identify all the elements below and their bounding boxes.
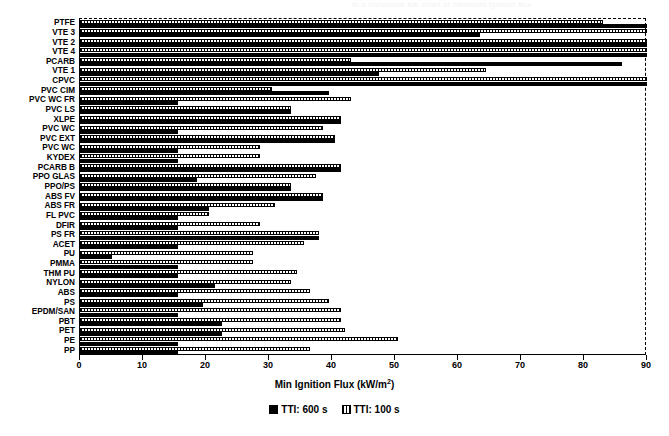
y-axis-label-pcarb-b: PCARB B — [38, 163, 75, 172]
bar-row — [80, 19, 645, 29]
legend-label: TTI: 100 s — [354, 404, 400, 415]
x-tick-label: 20 — [200, 360, 210, 370]
bar-row — [80, 308, 645, 318]
bar-row — [80, 250, 645, 260]
bar-tti-600s — [80, 226, 178, 230]
bar-row — [80, 106, 645, 116]
cropped-caption-fragment: in a horizontal bar chart of minimum ign… — [352, 0, 652, 9]
x-tick-label: 0 — [76, 360, 81, 370]
bar-tti-600s — [80, 120, 341, 124]
bar-row — [80, 58, 645, 68]
x-tick-label: 40 — [326, 360, 336, 370]
bar-row — [80, 115, 645, 125]
bar-row — [80, 231, 645, 241]
y-axis-label-vte-2: VTE 2 — [52, 38, 75, 47]
y-axis-label-vte-4: VTE 4 — [52, 47, 75, 56]
bar-tti-600s — [80, 274, 178, 278]
bar-tti-600s — [80, 72, 379, 76]
bar-tti-600s — [80, 53, 647, 57]
bar-tti-600s — [80, 265, 178, 269]
bar-row — [80, 96, 645, 106]
y-axis-label-pvc-wc-fr: PVC WC FR — [29, 95, 75, 104]
bar-tti-600s — [80, 101, 178, 105]
y-axis-label-pvc-ls: PVC LS — [45, 105, 75, 114]
bar-row — [80, 260, 645, 270]
bar-row — [80, 192, 645, 202]
y-axis-label-pe: PE — [64, 336, 75, 345]
bar-tti-600s — [80, 130, 178, 134]
bar-tti-600s — [80, 139, 335, 143]
bar-tti-600s — [80, 178, 197, 182]
y-axis-label-pbt: PBT — [59, 317, 75, 326]
y-axis-label-ptfe: PTFE — [54, 18, 75, 27]
bar-tti-600s — [80, 82, 647, 86]
bar-row — [80, 38, 645, 48]
y-axis-label-pet: PET — [59, 326, 75, 335]
bar-row — [80, 144, 645, 154]
bar-row — [80, 202, 645, 212]
y-axis-label-acet: ACET — [53, 240, 75, 249]
bar-tti-600s — [80, 322, 222, 326]
bar-row — [80, 163, 645, 173]
bar-tti-600s — [80, 62, 622, 66]
bar-tti-600s — [80, 293, 178, 297]
bar-tti-600s — [80, 187, 291, 191]
y-axis-label-pvc-wc: PVC WC — [42, 143, 75, 152]
bar-tti-600s — [80, 313, 178, 317]
y-axis-label-ppo-glas: PPO GLAS — [33, 172, 75, 181]
y-axis-label-abs: ABS — [58, 288, 75, 297]
bar-row — [80, 240, 645, 250]
bar-row — [80, 269, 645, 279]
y-axis-category-labels: PTFEVTE 3VTE 2VTE 4PCARBVTE 1CPVCPVC CIM… — [0, 18, 77, 355]
bar-tti-600s — [80, 110, 291, 114]
x-tick-label: 70 — [515, 360, 525, 370]
bar-row — [80, 183, 645, 193]
bar-row — [80, 298, 645, 308]
bar-row — [80, 289, 645, 299]
bar-tti-600s — [80, 159, 178, 163]
bar-row — [80, 135, 645, 145]
y-axis-label-vte-1: VTE 1 — [52, 66, 75, 75]
y-axis-label-thm-pu: THM PU — [44, 269, 75, 278]
bar-tti-600s — [80, 149, 178, 153]
bar-row — [80, 77, 645, 87]
bar-tti-600s — [80, 255, 112, 259]
bar-row — [80, 173, 645, 183]
y-axis-label-vte-3: VTE 3 — [52, 28, 75, 37]
bar-tti-600s — [80, 236, 319, 240]
y-axis-label-abs-fv: ABS FV — [45, 192, 75, 201]
bar-row — [80, 125, 645, 135]
x-axis-title: Min Ignition Flux (kW/m2) — [0, 378, 669, 390]
legend-swatch-hatch — [342, 405, 351, 414]
bar-tti-600s — [80, 332, 222, 336]
bar-tti-600s — [80, 284, 215, 288]
y-axis-label-pu: PU — [64, 249, 75, 258]
x-tick-label: 90 — [641, 360, 651, 370]
y-axis-label-ps: PS — [64, 298, 75, 307]
x-tick-label: 30 — [263, 360, 273, 370]
bar-row — [80, 279, 645, 289]
y-axis-label-pcarb: PCARB — [46, 57, 75, 66]
y-axis-label-pvc-cim: PVC CIM — [41, 86, 75, 95]
bar-tti-600s — [80, 91, 329, 95]
x-axis-title-close: ) — [391, 379, 394, 390]
y-axis-label-fl-pvc: FL PVC — [46, 211, 75, 220]
bar-row — [80, 154, 645, 164]
y-axis-label-dfir: DFIR — [56, 221, 75, 230]
bar-tti-600s — [80, 342, 178, 346]
y-axis-label-cpvc: CPVC — [52, 76, 75, 85]
bar-row — [80, 212, 645, 222]
bar-tti-600s — [80, 197, 323, 201]
bar-row — [80, 327, 645, 337]
x-axis-title-main: Min Ignition Flux (kW/m — [275, 379, 387, 390]
x-axis-tick-labels: 0102030405060708090 — [0, 360, 669, 374]
bar-row — [80, 67, 645, 77]
y-axis-label-pp: PP — [64, 346, 75, 355]
y-axis-label-pvc-ext: PVC EXT — [40, 134, 75, 143]
legend-swatch-black — [269, 405, 278, 414]
x-tick-label: 50 — [389, 360, 399, 370]
bar-tti-600s — [80, 303, 203, 307]
bar-tti-600s — [80, 33, 480, 37]
bar-row — [80, 48, 645, 58]
bar-tti-600s — [80, 207, 209, 211]
